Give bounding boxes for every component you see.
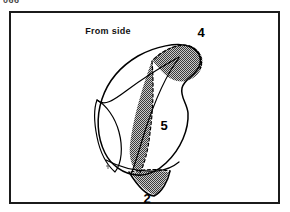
figure-label-2: 2 (143, 191, 150, 206)
figure-label-4: 4 (197, 25, 205, 40)
figure-frame: From side 4 5 2 (9, 11, 280, 204)
figure-caption: From side (85, 26, 131, 36)
cropped-page-header: 066 (3, 0, 20, 3)
figure-diagram: From side 4 5 2 (11, 13, 282, 206)
shaded-region-4 (152, 45, 203, 81)
apex-ridge-line (97, 57, 179, 103)
figure-label-5: 5 (160, 118, 167, 133)
